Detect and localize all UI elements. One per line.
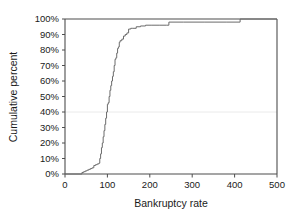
y-tick-label-80: 80% bbox=[40, 44, 60, 55]
chart-figure: 0%10%20%30%40%50%60%70%80%90%100% 010020… bbox=[0, 0, 300, 217]
axis-frame bbox=[65, 19, 277, 174]
y-axis-title: Cumulative percent bbox=[7, 52, 19, 143]
y-tick-label-60: 60% bbox=[40, 75, 60, 86]
cdf-step-line bbox=[65, 19, 277, 174]
x-tick-label-300: 300 bbox=[184, 179, 200, 190]
cdf-chart: 0%10%20%30%40%50%60%70%80%90%100% 010020… bbox=[0, 0, 300, 217]
x-tick-label-200: 200 bbox=[142, 179, 158, 190]
y-tick-label-30: 30% bbox=[40, 122, 60, 133]
x-tick-label-400: 400 bbox=[227, 179, 243, 190]
y-tick-label-20: 20% bbox=[40, 137, 60, 148]
x-tick-label-500: 500 bbox=[269, 179, 285, 190]
x-axis-title: Bankruptcy rate bbox=[134, 197, 208, 209]
x-tick-label-group: 0100200300400500 bbox=[62, 179, 285, 190]
y-tick-label-100: 100% bbox=[35, 13, 60, 24]
y-tick-label-70: 70% bbox=[40, 60, 60, 71]
y-tick-label-0: 0% bbox=[45, 168, 59, 179]
y-tick-label-10: 10% bbox=[40, 153, 60, 164]
y-tick-label-group: 0%10%20%30%40%50%60%70%80%90%100% bbox=[35, 13, 60, 179]
x-tick-label-100: 100 bbox=[99, 179, 115, 190]
x-tick-label-0: 0 bbox=[62, 179, 67, 190]
y-tick-label-40: 40% bbox=[40, 106, 60, 117]
y-tick-label-90: 90% bbox=[40, 29, 60, 40]
y-tick-label-50: 50% bbox=[40, 91, 60, 102]
